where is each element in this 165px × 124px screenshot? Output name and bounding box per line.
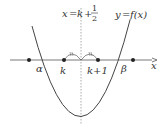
symmetry-label-denominator: 2	[92, 14, 97, 23]
k-plus-1-label: k+1	[87, 65, 108, 76]
k-label: k	[60, 65, 66, 76]
point-k-plus-1	[96, 58, 100, 62]
curve-label-y: y	[114, 9, 121, 20]
point-k	[62, 58, 66, 62]
symmetry-label-k: k	[77, 8, 83, 19]
symmetry-label-numerator: 1	[92, 4, 97, 13]
point-left	[27, 58, 31, 62]
point-right	[131, 58, 135, 62]
curve-label-fx: f(x)	[129, 9, 147, 20]
beta-label: β	[120, 63, 127, 74]
symmetry-label-x: x	[62, 8, 68, 19]
x-axis-label: x	[151, 60, 157, 71]
alpha-label: α	[36, 63, 43, 74]
parabola-diagram: α k k+1 β x x = k + 1 2 y = f(x)	[0, 0, 165, 124]
